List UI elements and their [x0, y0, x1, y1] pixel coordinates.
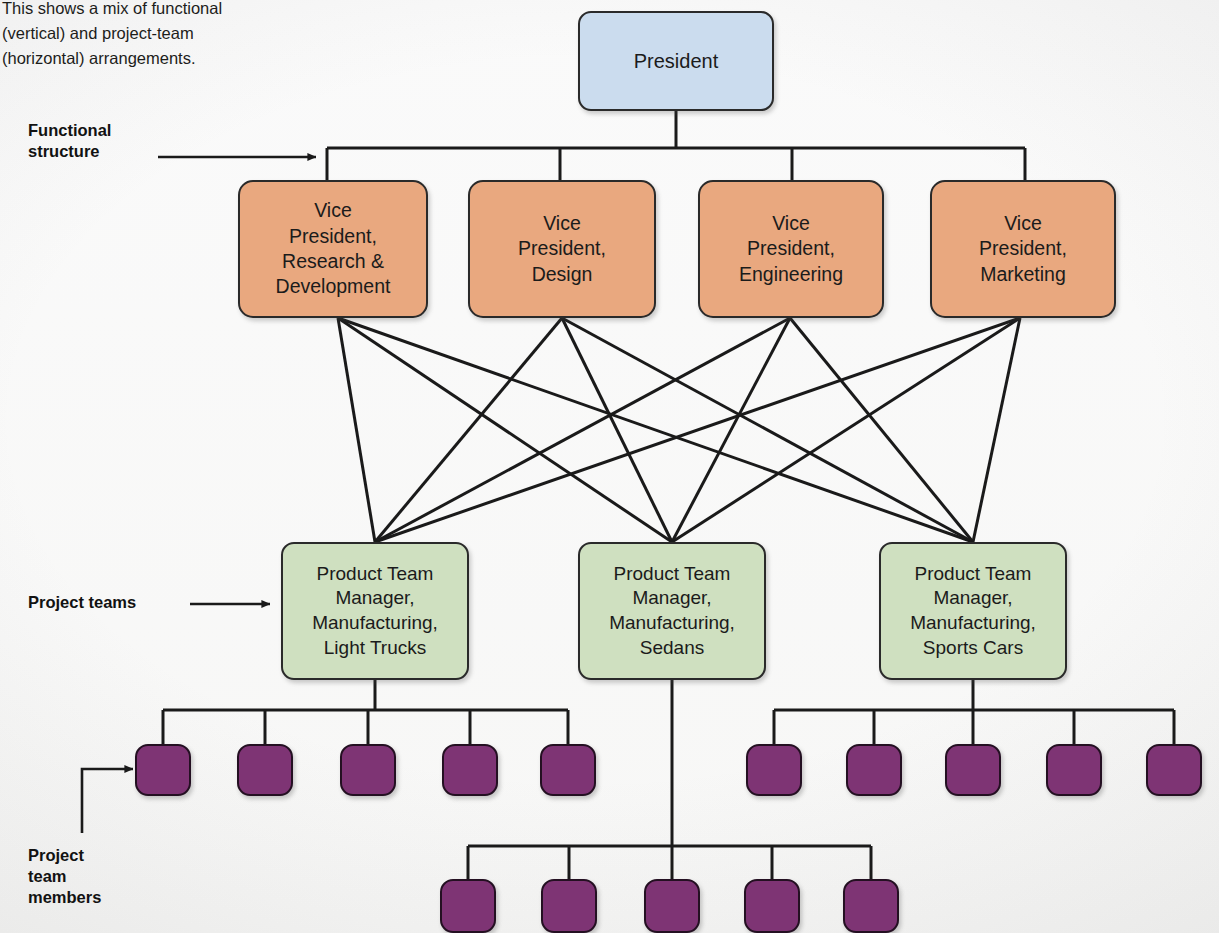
label-project-teams: Project teams: [28, 592, 136, 613]
node-product-team-sedans[interactable]: Product Team Manager, Manufacturing, Sed…: [578, 542, 766, 680]
node-team-member-sports-cars-3[interactable]: [945, 744, 1001, 796]
node-team-member-light-trucks-5[interactable]: [540, 744, 596, 796]
label-project-team-members: Project team members: [28, 845, 101, 908]
caption-block: This shows a mix of functional (vertical…: [2, 0, 302, 71]
arrow-project-team-members: [82, 769, 133, 833]
node-team-member-sports-cars-2[interactable]: [846, 744, 902, 796]
node-vice-president-marketing[interactable]: Vice President, Marketing: [930, 180, 1116, 318]
edge-vp4-team2: [672, 318, 1020, 542]
node-team-member-sports-cars-4[interactable]: [1046, 744, 1102, 796]
label-functional-structure: Functional structure: [28, 120, 111, 162]
node-president-label: President: [630, 48, 723, 74]
label-project-team-members-line-2: team: [28, 866, 101, 887]
node-team-member-sedans-3[interactable]: [644, 879, 700, 933]
label-functional-structure-line-2: structure: [28, 141, 111, 162]
node-team-member-sedans-5[interactable]: [843, 879, 899, 933]
node-team-member-sedans-4[interactable]: [744, 879, 800, 933]
node-team-member-sports-cars-5[interactable]: [1146, 744, 1202, 796]
edge-vp3-team2: [672, 318, 790, 542]
node-vice-president-research-development-label: Vice President, Research & Development: [272, 198, 395, 299]
node-product-team-light-trucks[interactable]: Product Team Manager, Manufacturing, Lig…: [281, 542, 469, 680]
node-team-member-light-trucks-1[interactable]: [135, 744, 191, 796]
node-vice-president-research-development[interactable]: Vice President, Research & Development: [238, 180, 428, 318]
node-vice-president-marketing-label: Vice President, Marketing: [975, 211, 1071, 287]
label-project-team-members-line-1: Project: [28, 845, 101, 866]
node-vice-president-design[interactable]: Vice President, Design: [468, 180, 656, 318]
label-project-team-members-line-3: members: [28, 887, 101, 908]
node-vice-president-design-label: Vice President, Design: [514, 211, 610, 287]
caption-line-3: (horizontal) arrangements.: [2, 46, 302, 71]
edge-vp1-team1: [338, 318, 375, 542]
node-product-team-sports-cars[interactable]: Product Team Manager, Manufacturing, Spo…: [879, 542, 1067, 680]
edge-vp4-team3: [973, 318, 1020, 542]
node-president[interactable]: President: [578, 11, 774, 111]
label-functional-structure-line-1: Functional: [28, 120, 111, 141]
node-product-team-sedans-label: Product Team Manager, Manufacturing, Sed…: [605, 562, 739, 661]
node-team-member-sedans-1[interactable]: [440, 879, 496, 933]
edge-vp4-team1: [375, 318, 1020, 542]
node-vice-president-engineering[interactable]: Vice President, Engineering: [698, 180, 884, 318]
node-product-team-light-trucks-label: Product Team Manager, Manufacturing, Lig…: [308, 562, 442, 661]
caption-line-2: (vertical) and project-team: [2, 21, 302, 46]
node-product-team-sports-cars-label: Product Team Manager, Manufacturing, Spo…: [906, 562, 1040, 661]
diagram-canvas: This shows a mix of functional (vertical…: [0, 0, 1219, 933]
node-team-member-light-trucks-4[interactable]: [442, 744, 498, 796]
caption-line-1: This shows a mix of functional: [2, 0, 302, 21]
node-vice-president-engineering-label: Vice President, Engineering: [735, 211, 847, 287]
node-team-member-sports-cars-1[interactable]: [746, 744, 802, 796]
node-team-member-light-trucks-2[interactable]: [237, 744, 293, 796]
node-team-member-sedans-2[interactable]: [541, 879, 597, 933]
node-team-member-light-trucks-3[interactable]: [340, 744, 396, 796]
